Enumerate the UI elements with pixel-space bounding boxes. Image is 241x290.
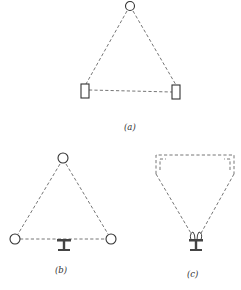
right-circle: [106, 234, 116, 244]
diagram-canvas: (a) (b) (c): [0, 0, 241, 290]
panel-b: (b): [10, 153, 116, 275]
left-circle: [10, 234, 20, 244]
dash-inner-right-corner: [224, 159, 230, 170]
panel-c: (c): [156, 155, 234, 279]
label-a: (a): [124, 122, 136, 132]
dash-left-edge: [86, 11, 127, 84]
dash-top-frame: [156, 155, 234, 174]
apex-circle: [58, 153, 68, 163]
left-rectangle: [81, 84, 89, 98]
label-b: (b): [55, 265, 67, 275]
i-beam-icon: [57, 239, 71, 251]
dash-left-sling: [156, 174, 192, 235]
dash-left-edge: [18, 164, 60, 234]
dash-right-edge: [66, 164, 108, 234]
apex-circle: [126, 2, 135, 11]
dash-inner-left-corner: [160, 159, 166, 170]
i-beam-with-hooks-icon: [189, 232, 203, 251]
dash-base-edge: [89, 90, 172, 92]
panel-a: (a): [81, 2, 180, 133]
right-rectangle: [172, 85, 180, 99]
dash-right-edge: [133, 11, 176, 85]
label-c: (c): [187, 269, 198, 279]
dash-right-sling: [200, 174, 234, 235]
